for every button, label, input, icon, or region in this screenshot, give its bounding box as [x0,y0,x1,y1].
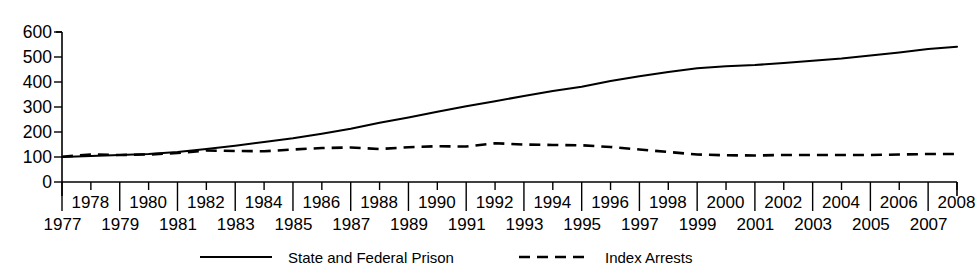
y-tick-marks [54,32,62,182]
legend-label-index-arrests: Index Arrests [605,249,693,266]
x-tick-label-2000: 2000 [707,193,745,212]
y-tick-label-300: 300 [23,97,52,117]
x-tick-label-1984: 1984 [245,193,283,212]
x-tick-marks [62,182,957,190]
y-tick-label-200: 200 [23,122,52,142]
x-tick-label-1990: 1990 [418,193,456,212]
x-tick-label-1998: 1998 [649,193,687,212]
x-tick-label-2005: 2005 [852,215,890,234]
x-tick-label-1981: 1981 [159,215,197,234]
x-tick-label-2007: 2007 [910,215,948,234]
x-tick-label-1992: 1992 [476,193,514,212]
y-tick-label-400: 400 [23,72,52,92]
x-tick-label-2002: 2002 [764,193,802,212]
x-tick-label-1987: 1987 [332,215,370,234]
x-tick-label-1994: 1994 [533,193,571,212]
x-axis-labels-bottom-row: 1977197919811983198519871989199119931995… [44,215,948,234]
y-tick-label-500: 500 [23,47,52,67]
legend-label-state-and-federal-prison: State and Federal Prison [288,249,454,266]
x-tick-label-1995: 1995 [563,215,601,234]
x-tick-label-2004: 2004 [822,193,860,212]
x-tick-label-1986: 1986 [302,193,340,212]
chart-legend: State and Federal Prison Index Arrests [200,249,693,266]
x-tick-label-1999: 1999 [679,215,717,234]
x-tick-label-1988: 1988 [360,193,398,212]
y-tick-label-100: 100 [23,147,52,167]
x-tick-label-2008: 2008 [938,193,976,212]
x-tick-label-1993: 1993 [506,215,544,234]
line-chart: 600 500 400 300 200 100 0 19781980198219… [0,0,979,280]
x-tick-label-1985: 1985 [275,215,313,234]
x-tick-label-1982: 1982 [187,193,225,212]
y-tick-label-600: 600 [23,22,52,42]
plot-series [62,47,957,157]
x-tick-label-1978: 1978 [71,193,109,212]
x-tick-label-1980: 1980 [129,193,167,212]
x-tick-label-1989: 1989 [390,215,428,234]
axes [54,32,957,196]
x-tick-label-1996: 1996 [591,193,629,212]
x-tick-label-2006: 2006 [880,193,918,212]
y-tick-label-0: 0 [42,172,52,192]
series-line-state-and-federal-prison [62,47,957,157]
x-tick-label-1991: 1991 [448,215,486,234]
chart-canvas: 600 500 400 300 200 100 0 19781980198219… [0,0,979,280]
y-axis-labels: 600 500 400 300 200 100 0 [23,22,52,192]
x-tick-label-1977: 1977 [44,215,82,234]
x-tick-label-1979: 1979 [101,215,139,234]
x-tick-label-1997: 1997 [621,215,659,234]
x-tick-label-2001: 2001 [736,215,774,234]
x-tick-label-2003: 2003 [794,215,832,234]
x-tick-label-1983: 1983 [217,215,255,234]
